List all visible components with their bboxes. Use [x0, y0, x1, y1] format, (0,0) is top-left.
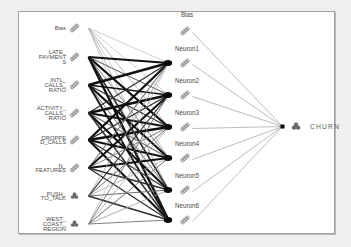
- hidden-node-neuron3: Neuron3: [175, 109, 200, 116]
- blob-churn: [281, 125, 285, 129]
- dots-icon: [292, 123, 300, 130]
- dots-icon: [71, 221, 78, 227]
- output-label: CHURN: [310, 123, 340, 130]
- input-label-line: FEATURES: [36, 167, 67, 173]
- hidden-node-neuron5: Neuron5: [175, 172, 200, 179]
- pencil-icon: [180, 185, 190, 194]
- edge-neuron5-churn: [193, 127, 283, 192]
- pencil-icon: [180, 153, 190, 162]
- blob-neuron6: [164, 217, 172, 223]
- hidden-label: Neuron5: [175, 172, 200, 179]
- input-hidden-edges: [89, 28, 169, 224]
- pencil-icon: [180, 58, 190, 67]
- edge-neuron3-churn: [193, 127, 283, 129]
- hidden-label: Neuron4: [175, 140, 200, 147]
- pencil-icon: [180, 26, 190, 35]
- hidden-label: Neuron1: [175, 45, 200, 52]
- input-node-west-coast-region: WEST_COAST_REGION: [43, 216, 67, 232]
- input-label-line: Bias: [55, 25, 66, 31]
- pencil-icon: [180, 215, 190, 224]
- input-node-push-to-talk: PUSH_TO_TALK: [41, 191, 67, 202]
- pencil-icon: [70, 80, 80, 89]
- hidden-output-edges: [193, 33, 283, 222]
- input-node-activity-calls-ratio: ACTIVITY_CALLS_RATIO: [37, 105, 67, 121]
- input-label-line: S: [62, 59, 66, 65]
- hidden-label: Neuron2: [175, 77, 200, 84]
- blob-neuron5: [164, 187, 172, 193]
- pencil-icon: [180, 122, 190, 131]
- edge-neuron6-churn: [193, 127, 283, 222]
- hidden-label: Neuron3: [175, 109, 200, 116]
- input-label-line: RATIO: [49, 87, 67, 93]
- input-label-line: D_CALLS: [40, 139, 66, 145]
- pencil-icon: [70, 163, 80, 172]
- hidden-node-hidden-bias: Bias: [181, 11, 193, 18]
- hidden-node-neuron6: Neuron6: [175, 202, 200, 209]
- pencil-icon: [70, 52, 80, 61]
- blob-neuron3: [164, 124, 172, 130]
- output-node-churn: CHURN: [310, 123, 340, 130]
- hidden-node-neuron4: Neuron4: [175, 140, 200, 147]
- hidden-label: Bias: [181, 11, 193, 18]
- pencil-icon: [70, 135, 80, 144]
- input-node-intl-calls-ratio: INTL_CALLS_RATIO: [44, 77, 66, 93]
- edge-hidden_bias-churn: [193, 33, 283, 127]
- hidden-node-neuron1: Neuron1: [175, 45, 200, 52]
- dots-icon: [71, 193, 78, 199]
- pencil-icon: [70, 108, 80, 117]
- input-node-dropped-calls: DROPPED_CALLS: [40, 135, 66, 146]
- blob-neuron2: [164, 92, 172, 98]
- edge-west_coast_region-neuron6: [89, 220, 169, 224]
- blob-neuron4: [164, 155, 172, 161]
- input-label-line: TO_TALK: [41, 195, 66, 201]
- input-node-n-features: N_FEATURES: [36, 163, 67, 174]
- pencil-icon: [180, 90, 190, 99]
- edge-neuron1-churn: [193, 65, 283, 127]
- blob-neuron1: [164, 60, 172, 66]
- hidden-node-neuron2: Neuron2: [175, 77, 200, 84]
- neural-network-diagram: BiasLATE_PAYMENTSINTL_CALLS_RATIOACTIVIT…: [0, 0, 351, 247]
- hidden-label: Neuron6: [175, 202, 200, 209]
- pencil-icon: [70, 23, 80, 32]
- results-window: BiasLATE_PAYMENTSINTL_CALLS_RATIOACTIVIT…: [0, 0, 351, 247]
- input-node-bias: Bias: [55, 25, 66, 31]
- edge-neuron2-churn: [193, 97, 283, 127]
- input-label-line: REGION: [43, 226, 66, 232]
- input-label-line: RATIO: [49, 115, 67, 121]
- edge-neuron4-churn: [193, 127, 283, 160]
- input-node-late-payments: LATE_PAYMENTS: [39, 49, 67, 65]
